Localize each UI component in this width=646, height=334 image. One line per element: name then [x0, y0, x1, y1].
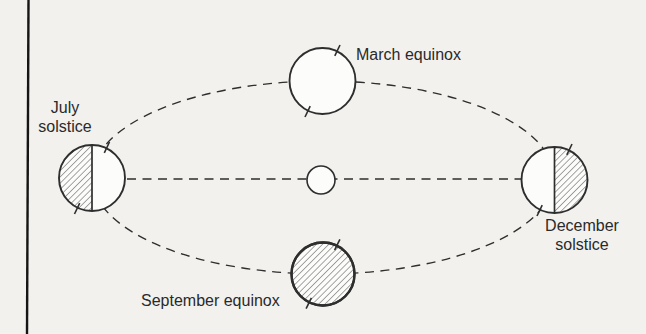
- page-edge-line: [27, 0, 29, 334]
- shaded-hemisphere: [555, 147, 588, 213]
- page: March equinox July solstice December sol…: [0, 0, 646, 334]
- earth-march-equinox: [290, 45, 356, 117]
- label-july-solstice: July solstice: [22, 98, 108, 136]
- orbit-diagram-svg: [0, 0, 646, 334]
- earth-december-solstice: [522, 144, 588, 216]
- label-march-equinox: March equinox: [356, 45, 461, 64]
- label-december-line1: December: [533, 216, 631, 235]
- earth-september-equinox: [292, 239, 355, 308]
- shaded-hemisphere: [59, 145, 92, 211]
- label-july-line2: solstice: [22, 117, 108, 136]
- earth-july-solstice: [59, 142, 125, 214]
- label-july-line1: July: [22, 98, 108, 117]
- label-december-solstice: December solstice: [533, 216, 631, 254]
- label-september-equinox: September equinox: [141, 291, 280, 310]
- earth-circle: [290, 48, 356, 114]
- sun-circle: [307, 166, 335, 194]
- label-december-line2: solstice: [533, 235, 631, 254]
